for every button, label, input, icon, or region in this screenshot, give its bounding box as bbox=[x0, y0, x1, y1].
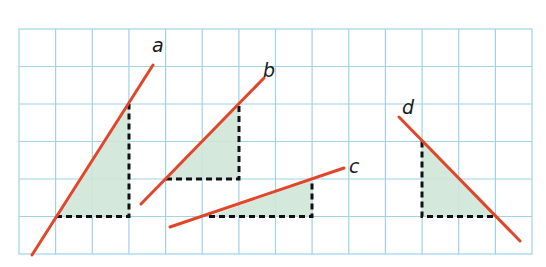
label-b: b bbox=[263, 59, 275, 81]
slope-diagram: a b c d bbox=[0, 0, 546, 267]
label-d: d bbox=[402, 96, 415, 118]
grid bbox=[19, 29, 532, 254]
label-c: c bbox=[349, 155, 360, 177]
label-a: a bbox=[152, 34, 164, 56]
